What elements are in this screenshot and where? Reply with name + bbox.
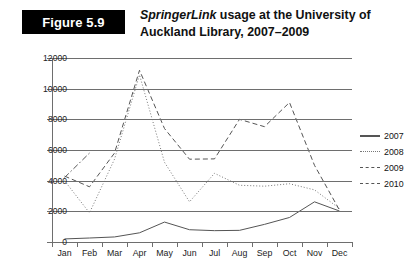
gridline bbox=[52, 150, 352, 151]
series-line-2009 bbox=[65, 70, 340, 210]
legend-label: 2008 bbox=[384, 144, 404, 160]
x-axis-tick bbox=[227, 242, 228, 247]
figure-title: SpringerLink usage at the University of … bbox=[140, 7, 410, 40]
legend-label: 2007 bbox=[384, 128, 404, 144]
legend-swatch-icon bbox=[360, 135, 380, 137]
x-axis-label: Aug bbox=[232, 248, 248, 258]
x-axis-label: Sep bbox=[257, 248, 273, 258]
y-axis-label: 2000 bbox=[48, 206, 67, 216]
y-axis-label: 8000 bbox=[48, 114, 67, 124]
plot-area bbox=[52, 58, 352, 242]
legend-label: 2009 bbox=[384, 160, 404, 176]
figure-container: Figure 5.9 SpringerLink usage at the Uni… bbox=[0, 0, 420, 279]
gridline bbox=[52, 89, 352, 90]
figure-title-emphasis: SpringerLink bbox=[140, 8, 216, 22]
figure-header: Figure 5.9 SpringerLink usage at the Uni… bbox=[0, 0, 420, 52]
x-axis-tick bbox=[77, 242, 78, 247]
series-line-2010 bbox=[65, 153, 90, 178]
gridline bbox=[52, 119, 352, 120]
x-axis-label: Oct bbox=[283, 248, 297, 258]
x-axis-label: Apr bbox=[133, 248, 147, 258]
x-axis-label: Jun bbox=[182, 248, 196, 258]
y-axis-label: 4000 bbox=[48, 176, 67, 186]
chart-area: 020004000600080001000012000 JanFebMarApr… bbox=[0, 52, 420, 279]
gridline bbox=[52, 211, 352, 212]
y-axis-label: 0 bbox=[62, 237, 67, 247]
figure-number-badge: Figure 5.9 bbox=[22, 10, 125, 34]
x-axis-label: Feb bbox=[82, 248, 97, 258]
y-axis-label: 6000 bbox=[48, 145, 67, 155]
x-axis-tick bbox=[327, 242, 328, 247]
x-axis-tick bbox=[352, 242, 353, 247]
legend-swatch-icon bbox=[360, 183, 380, 184]
legend-swatch-icon bbox=[360, 167, 380, 168]
x-axis-label: May bbox=[156, 248, 173, 258]
x-axis-tick bbox=[202, 242, 203, 247]
x-axis-tick bbox=[52, 242, 53, 247]
chart-legend: 2007200820092010 bbox=[360, 128, 420, 192]
legend-item-2008[interactable]: 2008 bbox=[360, 144, 420, 160]
legend-label: 2010 bbox=[384, 176, 404, 192]
x-axis-label: Nov bbox=[307, 248, 323, 258]
legend-swatch-icon bbox=[360, 151, 380, 152]
y-axis-label: 10000 bbox=[43, 84, 67, 94]
legend-item-2010[interactable]: 2010 bbox=[360, 176, 420, 192]
x-axis-tick bbox=[127, 242, 128, 247]
x-axis-tick bbox=[177, 242, 178, 247]
series-line-2008 bbox=[65, 75, 340, 213]
gridline bbox=[52, 181, 352, 182]
x-axis-label: Jul bbox=[209, 248, 220, 258]
legend-item-2007[interactable]: 2007 bbox=[360, 128, 420, 144]
y-axis-label: 12000 bbox=[43, 53, 67, 63]
x-axis-tick bbox=[277, 242, 278, 247]
x-axis-tick bbox=[102, 242, 103, 247]
x-axis-tick bbox=[302, 242, 303, 247]
x-axis-label: Dec bbox=[332, 248, 348, 258]
x-axis-tick bbox=[252, 242, 253, 247]
legend-item-2009[interactable]: 2009 bbox=[360, 160, 420, 176]
x-axis-tick bbox=[152, 242, 153, 247]
x-axis-label: Jan bbox=[57, 248, 71, 258]
gridline bbox=[52, 58, 352, 59]
x-axis-label: Mar bbox=[107, 248, 122, 258]
series-line-2007 bbox=[65, 202, 340, 239]
